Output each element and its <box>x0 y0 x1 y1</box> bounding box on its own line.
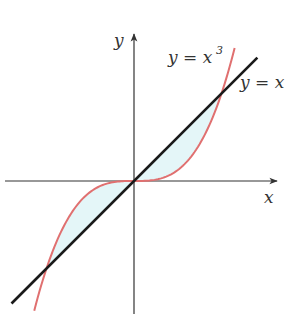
cubic-label: y = x <box>167 47 213 67</box>
cubic-label-text: y = x <box>167 47 213 67</box>
x-axis-label: x <box>264 187 274 207</box>
y-axis-label: y <box>113 30 124 50</box>
function-graph: y x y = x 3 y = x <box>0 0 299 335</box>
cubic-label-exponent: 3 <box>216 44 223 57</box>
line-label: y = x <box>239 72 285 92</box>
